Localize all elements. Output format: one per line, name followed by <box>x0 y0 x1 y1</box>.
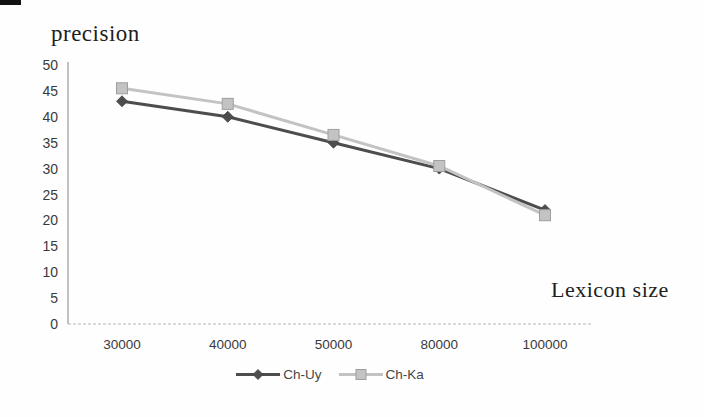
y-axis-tick: 5 <box>14 290 58 306</box>
x-axis-tick: 30000 <box>80 337 164 352</box>
y-axis-tick: 0 <box>14 316 58 332</box>
series-line-Ch-Uy <box>122 101 545 210</box>
y-axis-tick: 45 <box>14 83 58 99</box>
y-axis-tick: 15 <box>14 238 58 254</box>
legend: Ch-UyCh-Ka <box>68 367 591 382</box>
y-axis-tick: 30 <box>14 161 58 177</box>
data-point-marker-square <box>222 98 233 109</box>
line-chart-figure: precision 05101520253035404550 300004000… <box>0 0 704 417</box>
y-axis-tick: 25 <box>14 187 58 203</box>
series-line-Ch-Ka <box>122 88 545 215</box>
data-point-marker-diamond <box>253 370 263 380</box>
y-axis-tick: 10 <box>14 264 58 280</box>
legend-marker-diamond <box>235 367 281 382</box>
data-point-marker-square <box>356 370 366 380</box>
data-point-marker-square <box>328 129 339 140</box>
legend-label: Ch-Uy <box>283 367 321 382</box>
x-axis-tick: 100000 <box>503 337 587 352</box>
legend-item-Ch-Ka: Ch-Ka <box>338 367 424 382</box>
data-point-marker-square <box>434 161 445 172</box>
x-axis-tick: 80000 <box>397 337 481 352</box>
data-point-marker-diamond <box>222 111 233 122</box>
x-axis-title: Lexicon size <box>551 277 669 303</box>
data-point-marker-square <box>117 83 128 94</box>
y-axis-tick: 50 <box>14 57 58 73</box>
data-point-marker-square <box>540 210 551 221</box>
y-axis-tick: 20 <box>14 212 58 228</box>
x-axis-tick: 40000 <box>186 337 270 352</box>
y-axis-tick: 40 <box>14 109 58 125</box>
data-point-marker-diamond <box>117 96 128 107</box>
legend-label: Ch-Ka <box>386 367 424 382</box>
plot-area <box>0 0 704 417</box>
x-axis-tick: 50000 <box>292 337 376 352</box>
y-axis-tick: 35 <box>14 135 58 151</box>
legend-marker-square <box>338 367 384 382</box>
legend-item-Ch-Uy: Ch-Uy <box>235 367 321 382</box>
